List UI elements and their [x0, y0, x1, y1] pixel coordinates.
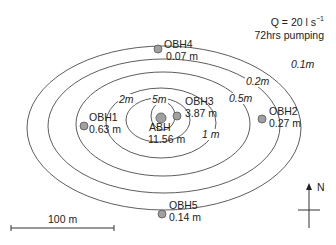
contour-label: 0.5m — [228, 93, 253, 104]
north-arrowhead-icon — [306, 183, 312, 190]
pumping-duration: 72hrs pumping — [255, 29, 324, 42]
borehole-name: OBH5 — [169, 200, 198, 211]
borehole-drawdown: 3.87 m — [185, 108, 217, 119]
discharge-rate: Q = 20 l s−1 — [255, 12, 324, 29]
borehole-drawdown: 0.27 m — [269, 118, 301, 129]
scale-bar — [11, 225, 114, 231]
pumping-info: Q = 20 l s−1 72hrs pumping — [255, 12, 324, 42]
contour-label: 2m — [118, 94, 135, 105]
borehole-obh1-icon — [80, 122, 88, 130]
borehole-drawdown: 11.56 m — [148, 134, 185, 145]
contour-label: 1 m — [201, 129, 221, 140]
contour-label: 0.2m — [245, 76, 270, 87]
borehole-name: OBH4 — [164, 39, 193, 50]
contour-label: 0.1m — [290, 59, 315, 70]
borehole-name: OBH2 — [269, 106, 298, 117]
borehole-name: OBH1 — [89, 112, 118, 123]
borehole-name: ABH — [149, 122, 171, 133]
contour-label: 5m — [151, 94, 168, 105]
borehole-drawdown: 0.63 m — [89, 124, 121, 135]
discharge-exponent: −1 — [316, 15, 324, 22]
borehole-obh5-icon — [158, 210, 166, 218]
borehole-drawdown: 0.07 m — [166, 51, 198, 62]
borehole-obh4-icon — [154, 45, 162, 53]
borehole-drawdown: 0.14 m — [169, 212, 201, 223]
discharge-text: Q = 20 l s — [271, 16, 316, 28]
borehole-name: OBH3 — [185, 96, 214, 107]
scale-bar-label: 100 m — [48, 214, 77, 225]
north-label: N — [317, 182, 325, 193]
borehole-obh3-icon — [173, 112, 181, 120]
borehole-obh2-icon — [258, 115, 266, 123]
